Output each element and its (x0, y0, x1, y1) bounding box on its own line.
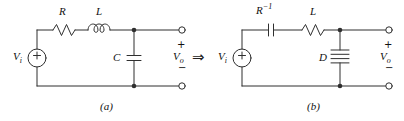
circuit-a-wires (37, 30, 179, 86)
node-dot (132, 28, 137, 33)
source-Vi-label-b: Vi (218, 51, 227, 62)
rlc-to-fdnr-transformation-figure: R L Vi C + Vo − (a) ⇒ R−1 L Vi D + Vo − … (0, 0, 404, 121)
output-minus-sign-b: − (385, 63, 393, 73)
resistor-L-label-b: L (310, 6, 316, 17)
fdnr-D-symbol (331, 30, 349, 86)
source-Vi-sub-a: i (20, 56, 22, 65)
capacitor-C-label: C (113, 52, 120, 63)
capacitor-Rinv-label: R−1 (256, 5, 272, 16)
terminal-circle (179, 27, 185, 33)
resistor-R-label: R (59, 6, 66, 17)
capacitor-Rinv-sup: −1 (263, 2, 272, 11)
source-Vi-sub-b: i (225, 56, 227, 65)
source-plus-icon (239, 52, 246, 59)
node-dot (338, 84, 343, 89)
circuit-b-caption: (b) (307, 101, 320, 112)
output-minus-sign-a: − (178, 63, 186, 73)
source-Vi-base-a: V (13, 50, 20, 62)
source-Vi-label-a: Vi (13, 51, 22, 62)
source-Vi-base-b: V (218, 50, 225, 62)
circuit-a-caption: (a) (100, 101, 113, 112)
terminal-circle (386, 83, 392, 89)
inductor-L-label: L (96, 6, 102, 17)
inductor-L-symbol (88, 24, 110, 32)
implies-arrow-icon: ⇒ (192, 50, 205, 65)
terminal-circle (386, 27, 392, 33)
source-plus-icon (34, 52, 41, 59)
voltage-source-symbol-a (28, 49, 46, 67)
output-Vo-base-a: V (173, 50, 180, 62)
capacitor-C-symbol (127, 30, 141, 86)
output-Vo-base-b: V (380, 50, 387, 62)
fdnr-D-label: D (319, 52, 327, 63)
output-Vo-label-b: Vo (380, 51, 391, 62)
circuit-b-wires (242, 30, 386, 86)
output-plus-sign-b: + (384, 40, 392, 50)
capacitor-Rinv-symbol (269, 24, 274, 36)
node-dot (132, 84, 137, 89)
node-dot (338, 28, 343, 33)
output-Vo-label-a: Vo (173, 51, 184, 62)
terminal-circle (179, 83, 185, 89)
capacitor-Rinv-base: R (256, 4, 263, 16)
output-plus-sign-a: + (177, 40, 185, 50)
voltage-source-symbol-b (233, 49, 251, 67)
resistor-L-symbol (302, 25, 324, 36)
resistor-R-symbol (53, 25, 75, 36)
